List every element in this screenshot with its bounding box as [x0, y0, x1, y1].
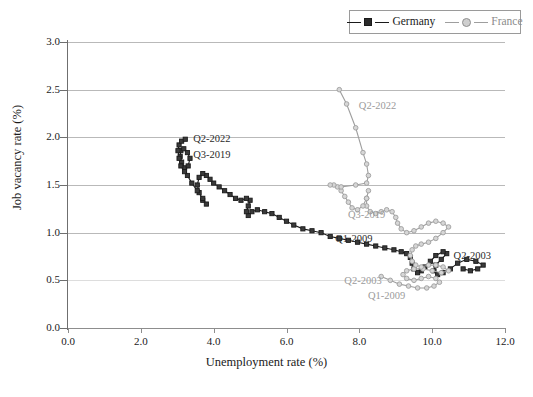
data-point — [434, 236, 439, 241]
data-point — [399, 250, 403, 254]
data-point — [176, 149, 180, 153]
data-point — [277, 215, 281, 219]
data-point — [410, 259, 415, 264]
data-point — [255, 208, 259, 212]
data-point — [346, 200, 351, 205]
data-point — [446, 269, 451, 274]
data-point — [456, 261, 460, 265]
data-point — [201, 196, 205, 200]
data-point — [434, 263, 439, 268]
data-point — [310, 229, 314, 233]
data-point — [412, 278, 417, 283]
legend-marker-circle-icon — [462, 18, 471, 27]
data-point — [353, 126, 358, 131]
data-point — [395, 221, 400, 226]
y-tick-3.0 — [60, 42, 68, 43]
y-tick-label-0.5: 0.5 — [26, 273, 60, 285]
legend-entry-france: France — [445, 16, 522, 28]
legend-entry-germany: Germany — [347, 16, 435, 28]
legend-line-germany-2 — [375, 22, 389, 23]
y-tick-0.5 — [60, 280, 68, 281]
y-tick-label-3.0: 3.0 — [26, 35, 60, 47]
data-point — [183, 137, 187, 141]
x-tick-label-6.0: 6.0 — [267, 335, 307, 347]
y-tick-0.0 — [60, 328, 68, 329]
data-point — [481, 263, 485, 267]
data-point — [415, 286, 420, 291]
data-point — [392, 248, 396, 252]
data-point — [366, 173, 371, 178]
data-point — [364, 181, 369, 186]
data-point — [204, 202, 208, 206]
data-point — [292, 223, 296, 227]
data-point — [195, 189, 199, 193]
point-label-germany-q2-2003: Q2-2003 — [454, 250, 491, 261]
data-point — [239, 198, 243, 202]
y-tick-label-1.0: 1.0 — [26, 226, 60, 238]
y-tick-1.0 — [60, 233, 68, 234]
data-point — [390, 209, 395, 214]
data-point — [195, 183, 199, 187]
data-point — [434, 219, 439, 224]
data-point — [408, 253, 413, 258]
data-point — [439, 257, 443, 261]
data-point — [179, 164, 183, 168]
data-point — [190, 181, 194, 185]
data-point — [426, 263, 431, 268]
data-point — [426, 274, 431, 279]
data-point — [361, 150, 366, 155]
point-label-france-q2-2022: Q2-2022 — [359, 100, 396, 111]
legend-line-france — [445, 22, 459, 23]
data-point — [446, 225, 451, 230]
data-point — [319, 231, 323, 235]
data-point — [217, 185, 221, 189]
data-point — [353, 183, 358, 188]
legend-marker-square-icon — [364, 18, 372, 26]
data-point — [328, 234, 332, 238]
data-point — [328, 183, 333, 188]
data-point — [182, 170, 186, 174]
legend-label-france: France — [491, 16, 522, 28]
series-canvas — [68, 42, 505, 328]
data-point — [419, 265, 424, 270]
data-point — [441, 230, 446, 235]
data-point — [374, 244, 378, 248]
data-point — [441, 250, 445, 254]
data-point — [388, 278, 393, 283]
data-point — [476, 267, 480, 271]
data-point — [222, 189, 226, 193]
legend-line-germany — [347, 22, 361, 23]
data-point — [439, 270, 444, 275]
x-axis-title: Unemployment rate (%) — [0, 355, 533, 370]
point-label-germany-q1-2009: Q1-2009 — [335, 233, 372, 244]
x-tick-label-4.0: 4.0 — [194, 335, 234, 347]
data-point — [364, 162, 369, 167]
point-label-germany-q3-2019: Q3-2019 — [193, 149, 230, 160]
data-point — [424, 286, 429, 291]
data-point — [412, 228, 417, 233]
data-point — [441, 265, 446, 270]
data-point — [461, 267, 465, 271]
point-label-france-q3-2019: Q3-2019 — [348, 209, 385, 220]
y-tick-label-2.5: 2.5 — [26, 83, 60, 95]
data-point — [344, 102, 349, 107]
data-point — [419, 276, 424, 281]
data-point — [342, 194, 347, 199]
series-line-france — [330, 90, 448, 288]
x-tick-10.0 — [432, 328, 433, 333]
data-point — [301, 227, 305, 231]
legend-label-germany: Germany — [392, 16, 435, 28]
data-point — [366, 188, 371, 193]
y-tick-2.0 — [60, 137, 68, 138]
point-label-france-q2-2003: Q2-2003 — [344, 275, 381, 286]
data-point — [404, 269, 409, 274]
data-point — [188, 156, 192, 160]
data-point — [432, 284, 437, 289]
x-tick-0.0 — [68, 328, 69, 333]
data-point — [337, 87, 342, 92]
data-point — [434, 276, 439, 281]
data-point — [197, 175, 201, 179]
data-point — [430, 269, 435, 274]
data-point — [339, 185, 344, 190]
data-point — [413, 263, 418, 268]
